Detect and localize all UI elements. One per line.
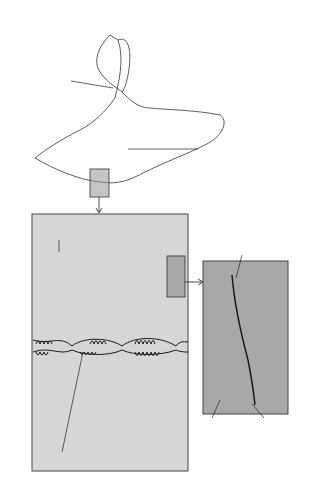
selection-box-loop	[167, 256, 185, 297]
lampbrush-chromosome-diagram	[0, 0, 327, 489]
chiasma-leader	[71, 81, 113, 88]
transcription-detail-panel	[203, 261, 288, 414]
loop-detail-panel	[32, 214, 188, 471]
bivalent-chromosome	[35, 35, 224, 183]
selection-box-chromosome	[90, 169, 109, 197]
